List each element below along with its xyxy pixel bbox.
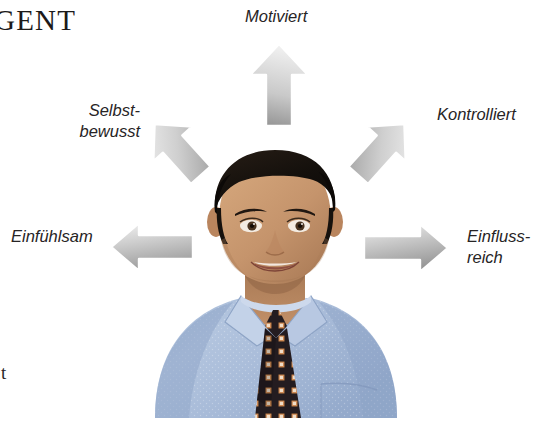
label-kontrolliert: Kontrolliert	[437, 104, 516, 125]
diagram-page: GENT t	[0, 0, 547, 426]
label-einflussreich: Einfluss- reich	[467, 226, 530, 268]
portrait-photo	[145, 150, 407, 418]
label-selbstbewusst: Selbst- bewusst	[56, 100, 140, 142]
portrait-illustration	[145, 150, 407, 418]
arrow-up-icon	[247, 42, 311, 128]
cropped-margin-text: t	[1, 362, 6, 384]
page-title: GENT	[0, 4, 76, 37]
label-motiviert: Motiviert	[245, 6, 307, 27]
label-einfuehlsam: Einfühlsam	[11, 226, 93, 247]
